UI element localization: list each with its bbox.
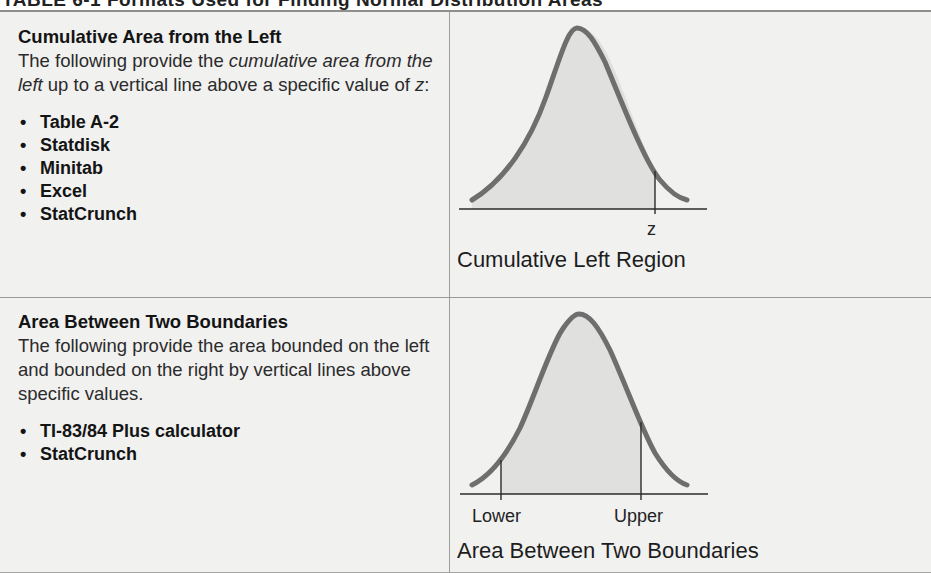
lower-marker-label: Lower [472, 506, 521, 527]
tool-name: Excel [40, 181, 87, 201]
list-item: •StatCrunch [18, 203, 438, 226]
bullet-icon: • [20, 134, 26, 157]
desc-text: : [424, 74, 429, 95]
bullet-icon: • [20, 111, 26, 134]
row-description: The following provide the cumulative are… [18, 49, 438, 97]
list-item: •TI-83/84 Plus calculator [18, 420, 438, 443]
figure-caption: Cumulative Left Region [457, 247, 686, 273]
tool-list: •TI-83/84 Plus calculator •StatCrunch [18, 420, 438, 466]
desc-text: The following provide the [18, 50, 229, 71]
list-item: •Table A-2 [18, 111, 438, 134]
row-cumulative-left-text: Cumulative Area from the Left The follow… [18, 25, 438, 226]
list-item: •Excel [18, 180, 438, 203]
row-title: Area Between Two Boundaries [18, 310, 438, 333]
tool-name: Minitab [40, 158, 103, 178]
bullet-icon: • [20, 180, 26, 203]
tool-name: Table A-2 [40, 112, 119, 132]
list-item: •Minitab [18, 157, 438, 180]
tool-name: StatCrunch [40, 444, 137, 464]
tool-name: Statdisk [40, 135, 110, 155]
tool-list: •Table A-2 •Statdisk •Minitab •Excel •St… [18, 111, 438, 226]
tool-name: StatCrunch [40, 204, 137, 224]
figure-caption: Area Between Two Boundaries [457, 538, 759, 564]
list-item: •Statdisk [18, 134, 438, 157]
bullet-icon: • [20, 157, 26, 180]
table-title: TABLE 6-1 Formats Used for Finding Norma… [2, 0, 603, 10]
bullet-icon: • [20, 443, 26, 466]
row-description: The following provide the area bounded o… [18, 334, 438, 406]
table-title-strip: TABLE 6-1 Formats Used for Finding Norma… [0, 0, 931, 10]
z-marker-label: z [647, 219, 656, 240]
cumulative-left-figure: z Cumulative Left Region [450, 12, 931, 297]
desc-text: up to a vertical line above a specific v… [43, 74, 415, 95]
list-item: •StatCrunch [18, 443, 438, 466]
desc-variable: z [415, 74, 424, 95]
normal-curve-middle-shaded [450, 298, 931, 572]
row-between-boundaries-text: Area Between Two Boundaries The followin… [18, 310, 438, 466]
between-boundaries-figure: Lower Upper Area Between Two Boundaries [450, 298, 931, 572]
tool-name: TI-83/84 Plus calculator [40, 421, 240, 441]
upper-marker-label: Upper [614, 506, 663, 527]
row-title: Cumulative Area from the Left [18, 25, 438, 48]
bullet-icon: • [20, 420, 26, 443]
bullet-icon: • [20, 203, 26, 226]
